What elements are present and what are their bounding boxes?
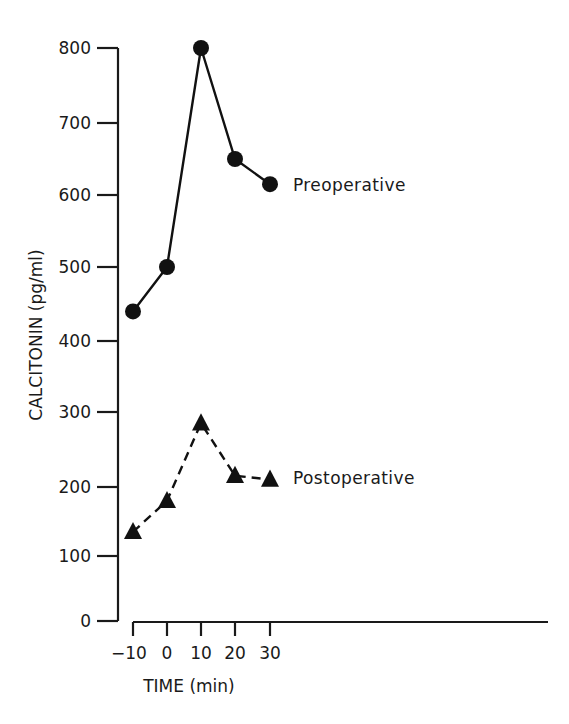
x-tick-label: 10 <box>190 643 212 663</box>
series-line <box>133 48 270 311</box>
y-tick-label: 400 <box>59 331 91 351</box>
series-label-postoperative: Postoperative <box>293 468 415 488</box>
series-layer <box>124 40 279 539</box>
series-label-preoperative: Preoperative <box>293 175 406 195</box>
y-axis: 0100200300400500600700800 <box>59 38 118 631</box>
triangle-marker-icon <box>124 522 142 539</box>
series-postoperative <box>124 413 279 539</box>
x-tick-label: −10 <box>111 643 147 663</box>
calcitonin-line-chart: 0100200300400500600700800 −100102030 CAL… <box>0 0 569 724</box>
circle-marker-icon <box>227 151 243 167</box>
series-line <box>133 423 270 532</box>
x-tick-label: 0 <box>162 643 173 663</box>
y-tick-label: 100 <box>59 546 91 566</box>
y-tick-label: 600 <box>59 185 91 205</box>
y-tick-label: 700 <box>59 113 91 133</box>
y-tick-label: 0 <box>80 611 91 631</box>
y-tick-label: 500 <box>59 257 91 277</box>
x-axis: −100102030 <box>111 622 548 663</box>
triangle-marker-icon <box>158 491 176 508</box>
triangle-marker-icon <box>226 466 244 483</box>
x-tick-label: 30 <box>259 643 281 663</box>
triangle-marker-icon <box>261 470 279 487</box>
y-tick-label: 800 <box>59 38 91 58</box>
circle-marker-icon <box>193 40 209 56</box>
y-tick-label: 300 <box>59 402 91 422</box>
circle-marker-icon <box>125 303 141 319</box>
y-axis-title: CALCITONIN (pg/ml) <box>26 249 46 420</box>
x-tick-label: 20 <box>224 643 246 663</box>
circle-marker-icon <box>262 176 278 192</box>
y-tick-label: 200 <box>59 477 91 497</box>
series-preoperative <box>125 40 278 319</box>
triangle-marker-icon <box>192 413 210 430</box>
circle-marker-icon <box>159 259 175 275</box>
x-axis-title: TIME (min) <box>142 676 235 696</box>
